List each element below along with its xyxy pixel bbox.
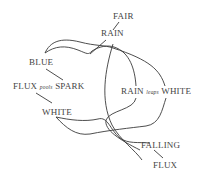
node-flux: FLUX <box>153 161 177 170</box>
edge-rain-down <box>90 40 106 54</box>
node-rain: RAIN <box>101 29 124 38</box>
edge-blue-spark <box>46 69 63 80</box>
word-diagram: FAIR RAIN BLUE FLUX pools SPARK RAIN lea… <box>0 0 197 177</box>
edge-falling-flux <box>154 150 163 158</box>
node-falling: FALLING <box>141 141 180 150</box>
node-rain-leaps-white-left: RAIN <box>121 86 144 96</box>
loop-blue-rain <box>45 46 136 86</box>
node-white: WHITE <box>42 108 72 117</box>
curve-white-whiteleaps <box>56 98 166 134</box>
node-blue: BLUE <box>29 58 53 67</box>
node-flux-pools-spark-mid: pools <box>40 84 53 90</box>
node-rain-leaps-white-right: WHITE <box>161 86 191 96</box>
node-flux-pools-spark-left: FLUX <box>13 81 37 91</box>
node-flux-pools-spark-right: SPARK <box>55 81 84 91</box>
node-rain-leaps-white-mid: leaps <box>146 89 159 95</box>
node-flux-pools-spark: FLUX pools SPARK <box>13 82 84 91</box>
node-rain-leaps-white: RAIN leaps WHITE <box>121 87 191 96</box>
node-fair: FAIR <box>113 12 134 21</box>
edge-spark-white <box>36 93 52 103</box>
